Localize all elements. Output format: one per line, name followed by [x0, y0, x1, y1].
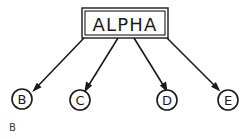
edge-root-to-d: [134, 38, 168, 92]
edge-line: [134, 38, 165, 88]
edge-line: [167, 38, 217, 88]
node-e[interactable]: E: [218, 90, 238, 110]
node-label: D: [162, 93, 172, 108]
edge-root-to-e: [167, 38, 220, 92]
node-d[interactable]: D: [157, 90, 177, 110]
node-label: B: [18, 92, 27, 107]
edge-root-to-c: [84, 38, 118, 92]
tree-diagram: ALPHA B C D E B: [0, 0, 249, 139]
edge-line: [87, 38, 118, 88]
node-label: E: [224, 93, 232, 108]
edge-root-to-b: [32, 38, 84, 92]
root-node-label: ALPHA: [92, 14, 157, 35]
node-b[interactable]: B: [12, 89, 32, 109]
root-node-alpha[interactable]: ALPHA: [82, 8, 168, 38]
node-label: C: [75, 93, 84, 108]
diagram-canvas: ALPHA B C D E B: [0, 0, 249, 139]
figure-caption: B: [9, 122, 16, 133]
edge-line: [36, 38, 84, 88]
node-c[interactable]: C: [70, 90, 90, 110]
